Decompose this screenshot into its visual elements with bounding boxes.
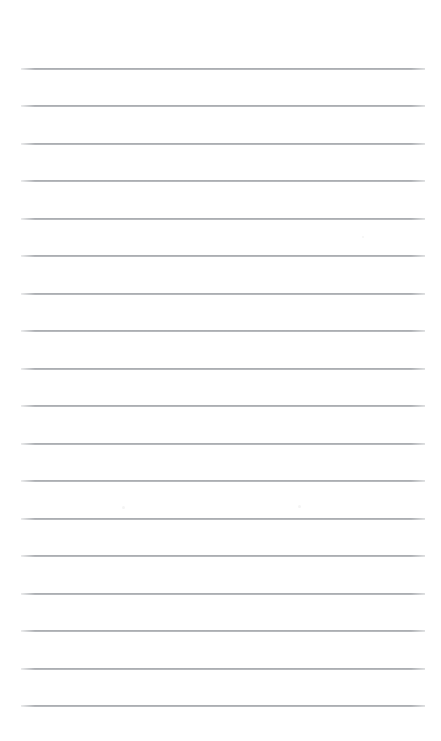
handwriting-text-layer bbox=[21, 68, 425, 718]
notepaper-page bbox=[0, 0, 441, 741]
